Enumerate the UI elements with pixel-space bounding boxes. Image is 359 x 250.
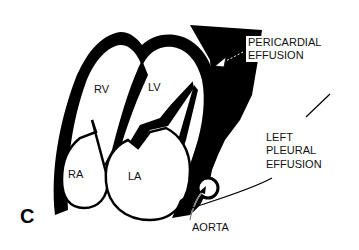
panel-label: C — [20, 205, 34, 227]
label-rv: RV — [94, 83, 110, 95]
label-pericardial-2: EFFUSION — [248, 49, 304, 61]
aorta-circle — [198, 178, 218, 198]
label-pleural-2: PLEURAL — [266, 144, 316, 156]
cardiac-diagram: RV LV RA LA PERICARDIAL EFFUSION LEFT PL… — [0, 0, 359, 250]
label-ra: RA — [68, 168, 84, 180]
label-pleural-3: EFFUSION — [266, 158, 322, 170]
pleural-leader-line-top — [306, 94, 330, 117]
label-pleural-1: LEFT — [266, 131, 293, 143]
label-aorta: AORTA — [192, 221, 230, 233]
label-la: LA — [128, 170, 142, 182]
label-pericardial-1: PERICARDIAL — [248, 36, 321, 48]
label-lv: LV — [148, 81, 161, 93]
